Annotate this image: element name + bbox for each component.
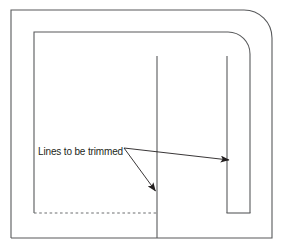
- callout-label: Lines to be trimmed: [38, 146, 123, 157]
- trim-lines-diagram: Lines to be trimmed: [0, 0, 285, 246]
- figure-root: Lines to be trimmed: [0, 0, 285, 246]
